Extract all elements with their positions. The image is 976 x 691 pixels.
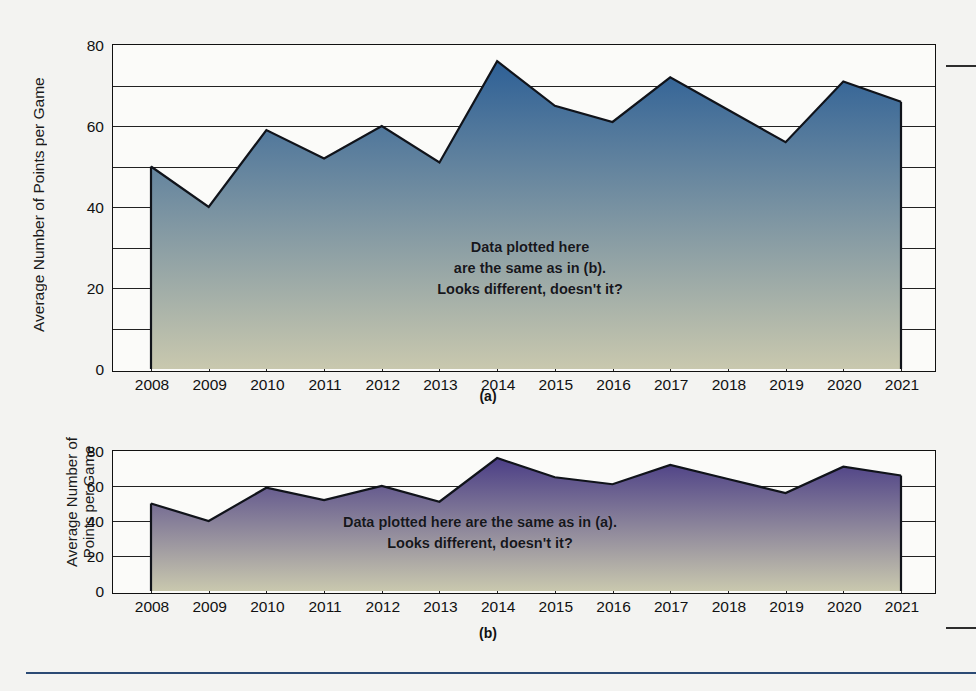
figure-page: Average Number of Points per Game 020406… — [0, 0, 976, 691]
caption-a: (a) — [0, 388, 976, 404]
x-tick-label-2014: 2014 — [481, 598, 515, 616]
y-tick-label-80: 80 — [74, 37, 104, 55]
figure-a: Average Number of Points per Game 020406… — [0, 0, 976, 405]
x-tick-label-2019: 2019 — [769, 598, 803, 616]
x-tick-label-2011: 2011 — [308, 598, 341, 616]
right-edge-dash-top — [946, 65, 976, 67]
caption-b: (b) — [0, 625, 976, 641]
x-tick-label-2018: 2018 — [712, 598, 746, 616]
x-tick-label-2021: 2021 — [885, 598, 919, 616]
plot-area-a — [112, 44, 936, 372]
y-tick-label-0: 0 — [74, 361, 104, 379]
annotation-a: Data plotted here are the same as in (b)… — [360, 237, 700, 300]
y-tick-label-40: 40 — [74, 199, 104, 217]
x-tick-label-2008: 2008 — [135, 598, 169, 616]
x-tick-label-2009: 2009 — [192, 598, 226, 616]
y-tick-label-20: 20 — [74, 548, 104, 566]
x-tick-label-2013: 2013 — [423, 598, 457, 616]
y-tick-label-40: 40 — [74, 513, 104, 531]
x-tick-label-2015: 2015 — [539, 598, 573, 616]
annotation-b: Data plotted here are the same as in (a)… — [240, 512, 720, 554]
right-edge-dash-bottom — [946, 627, 976, 629]
y-tick-label-80: 80 — [74, 443, 104, 461]
x-tick-label-2010: 2010 — [250, 598, 284, 616]
y-tick-label-0: 0 — [74, 583, 104, 601]
x-tick-label-2020: 2020 — [827, 598, 861, 616]
y-tick-label-60: 60 — [74, 478, 104, 496]
x-tick-label-2017: 2017 — [654, 598, 688, 616]
area-series-a — [113, 45, 936, 372]
y-tick-label-60: 60 — [74, 118, 104, 136]
y-axis-label-a: Average Number of Points per Game — [30, 40, 52, 370]
figure-b: Average Number of Points per Game 020406… — [0, 420, 976, 640]
x-tick-label-2012: 2012 — [366, 598, 400, 616]
page-bottom-rule — [26, 672, 976, 674]
area-fill — [151, 61, 901, 369]
y-tick-label-20: 20 — [74, 280, 104, 298]
x-tick-label-2016: 2016 — [596, 598, 630, 616]
